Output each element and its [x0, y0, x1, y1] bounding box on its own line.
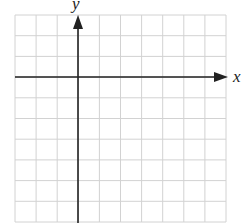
- x-axis-label: x: [232, 67, 241, 86]
- grid-lines: [15, 15, 226, 222]
- y-axis-label: y: [70, 0, 80, 13]
- coordinate-plane: x y: [0, 0, 248, 223]
- y-axis-arrowhead-icon: [73, 15, 83, 29]
- x-axis: [15, 72, 228, 82]
